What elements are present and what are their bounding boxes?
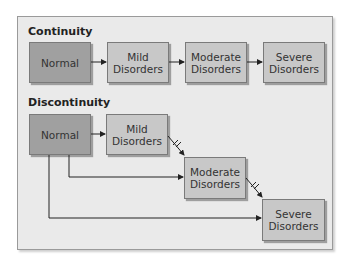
connector-arrows [0,0,347,261]
